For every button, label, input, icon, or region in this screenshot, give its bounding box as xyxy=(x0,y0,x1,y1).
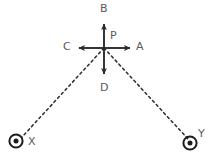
label-p: P xyxy=(110,30,117,41)
label-a: A xyxy=(136,41,144,52)
label-c: C xyxy=(63,41,71,52)
cross-arrows-group xyxy=(79,24,130,74)
label-d: D xyxy=(100,82,108,93)
dashed-rays-group xyxy=(22,48,189,140)
source-marker-x xyxy=(9,134,22,147)
label-x: X xyxy=(28,136,36,147)
source-marker-y xyxy=(183,136,196,149)
ray-to-x xyxy=(22,48,104,137)
ray-diagram-figure: B P A C D X Y xyxy=(0,0,217,158)
label-y: Y xyxy=(198,128,205,139)
label-b: B xyxy=(100,3,108,14)
ray-to-y xyxy=(104,48,189,140)
